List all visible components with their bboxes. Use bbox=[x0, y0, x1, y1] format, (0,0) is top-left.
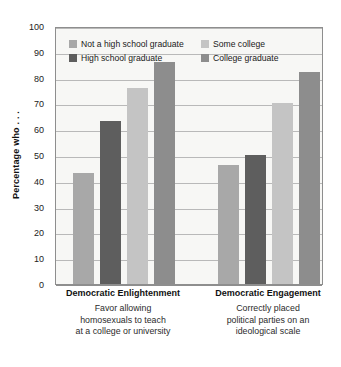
bar bbox=[100, 121, 121, 284]
bar bbox=[127, 88, 148, 284]
x-axis-description-line: at a college or university bbox=[48, 326, 198, 338]
x-axis-category-description: Favor allowinghomosexuals to teachat a c… bbox=[48, 303, 198, 338]
x-axis-group-label-2: Democratic EngagementCorrectly placedpol… bbox=[193, 288, 341, 338]
legend-swatch-icon bbox=[201, 54, 209, 62]
legend-label: Some college bbox=[213, 39, 265, 49]
bar-chart: Percentage who . . . 1009080706050403020… bbox=[0, 0, 341, 367]
legend-swatch-icon bbox=[201, 40, 209, 48]
x-axis-category-description: Correctly placedpolitical parties on ani… bbox=[193, 303, 341, 338]
x-axis-category-title: Democratic Enlightenment bbox=[48, 288, 198, 298]
y-tick-label-10: 10 bbox=[34, 254, 44, 264]
x-axis-labels: Democratic EnlightenmentFavor allowingho… bbox=[55, 288, 323, 367]
y-axis-tick-labels: 1009080706050403020100 bbox=[0, 27, 52, 285]
y-tick-label-100: 100 bbox=[29, 22, 44, 32]
y-tick-label-0: 0 bbox=[39, 280, 44, 290]
bar bbox=[218, 165, 239, 284]
x-axis-description-line: political parties on an bbox=[193, 315, 341, 327]
y-tick-label-40: 40 bbox=[34, 177, 44, 187]
legend-label: College graduate bbox=[213, 53, 278, 63]
bar bbox=[154, 62, 175, 284]
y-tick-label-90: 90 bbox=[34, 48, 44, 58]
y-tick-label-70: 70 bbox=[34, 99, 44, 109]
y-tick-label-50: 50 bbox=[34, 151, 44, 161]
bar bbox=[272, 103, 293, 284]
y-tick-label-30: 30 bbox=[34, 203, 44, 213]
bars-layer bbox=[56, 28, 322, 284]
legend-item: High school graduate bbox=[69, 53, 201, 63]
x-axis-description-line: Favor allowing bbox=[48, 303, 198, 315]
legend-swatch-icon bbox=[69, 54, 77, 62]
legend-swatch-icon bbox=[69, 40, 77, 48]
y-tick-label-80: 80 bbox=[34, 74, 44, 84]
legend-item: Some college bbox=[201, 39, 309, 49]
bar bbox=[245, 155, 266, 284]
y-tick-label-60: 60 bbox=[34, 125, 44, 135]
legend-item: College graduate bbox=[201, 53, 309, 63]
x-axis-description-line: homosexuals to teach bbox=[48, 315, 198, 327]
y-tick-label-20: 20 bbox=[34, 228, 44, 238]
bar-group-2 bbox=[218, 28, 320, 284]
x-axis-description-line: Correctly placed bbox=[193, 303, 341, 315]
bar bbox=[299, 72, 320, 284]
x-axis-category-title: Democratic Engagement bbox=[193, 288, 341, 298]
x-axis-description-line: ideological scale bbox=[193, 326, 341, 338]
chart-legend: Not a high school graduateSome collegeHi… bbox=[69, 37, 309, 64]
gridline-0 bbox=[56, 285, 322, 286]
legend-label: Not a high school graduate bbox=[81, 39, 184, 49]
legend-label: High school graduate bbox=[81, 53, 162, 63]
x-axis-group-label-1: Democratic EnlightenmentFavor allowingho… bbox=[48, 288, 198, 338]
plot-area: Not a high school graduateSome collegeHi… bbox=[55, 27, 323, 285]
legend-item: Not a high school graduate bbox=[69, 39, 201, 49]
bar bbox=[73, 173, 94, 284]
bar-group-1 bbox=[73, 28, 175, 284]
